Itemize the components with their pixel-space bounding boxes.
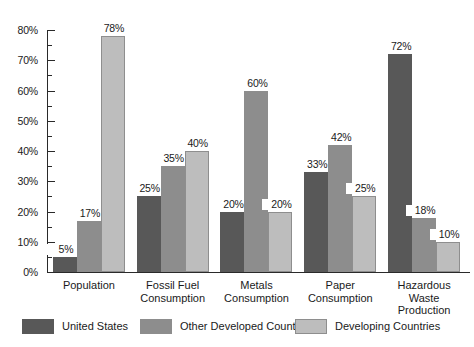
bar-group: 33%42%25% xyxy=(298,0,382,272)
y-tick-label: 20% xyxy=(2,207,38,217)
bar-2[interactable] xyxy=(352,196,376,272)
category-label: Fossil Fuel Consumption xyxy=(131,279,215,304)
x-axis-line xyxy=(47,272,470,273)
category-label: Population xyxy=(47,279,131,292)
bar-2[interactable] xyxy=(101,36,125,272)
category-label: Hazardous Waste Production xyxy=(382,279,466,317)
bar-value-label: 72% xyxy=(382,41,420,52)
bar-0[interactable] xyxy=(53,257,77,272)
bar-2[interactable] xyxy=(185,151,209,272)
bar-0[interactable] xyxy=(220,212,244,273)
y-tick-label: 80% xyxy=(2,25,38,35)
bar-group: 72%18%10% xyxy=(382,0,466,272)
bar-value-label: 25% xyxy=(346,183,384,194)
bar-value-label: 42% xyxy=(322,132,360,143)
chart-legend: United StatesOther Developed CountriesDe… xyxy=(0,318,474,340)
bar-1[interactable] xyxy=(77,221,101,272)
category-label: Paper Consumption xyxy=(298,279,382,304)
bar-2[interactable] xyxy=(436,242,460,272)
bar-1[interactable] xyxy=(328,145,352,272)
bar-group: 20%60%20% xyxy=(215,0,299,272)
legend-swatch-icon xyxy=(22,319,54,334)
y-tick-label: 10% xyxy=(2,237,38,247)
plot-area: 0%10%20%30%40%50%60%70%80% 5%17%78%25%35… xyxy=(0,0,474,300)
bar-1[interactable] xyxy=(161,166,185,272)
legend-label: Other Developed Countries xyxy=(180,320,313,333)
bar-1[interactable] xyxy=(244,91,268,273)
bar-value-label: 20% xyxy=(262,199,300,210)
bar-2[interactable] xyxy=(268,212,292,273)
y-axis-tick-labels: 0%10%20%30%40%50%60%70%80% xyxy=(0,0,38,300)
y-tick-label: 0% xyxy=(2,267,38,277)
category-label: Metals Consumption xyxy=(215,279,299,304)
bar-value-label: 60% xyxy=(238,78,276,89)
bar-group: 5%17%78% xyxy=(47,0,131,272)
bar-chart: 0%10%20%30%40%50%60%70%80% 5%17%78%25%35… xyxy=(0,0,474,347)
y-tick-label: 30% xyxy=(2,176,38,186)
bar-0[interactable] xyxy=(137,196,161,272)
bar-0[interactable] xyxy=(388,54,412,272)
y-tick-label: 50% xyxy=(2,116,38,126)
bar-0[interactable] xyxy=(304,172,328,272)
y-tick-label: 70% xyxy=(2,55,38,65)
legend-swatch-icon xyxy=(295,319,327,334)
legend-label: Developing Countries xyxy=(335,320,440,333)
y-tick-label: 40% xyxy=(2,146,38,156)
bars-container: 5%17%78%25%35%40%20%60%20%33%42%25%72%18… xyxy=(47,0,466,272)
bar-1[interactable] xyxy=(412,218,436,272)
legend-label: United States xyxy=(62,320,128,333)
bar-value-label: 40% xyxy=(179,138,217,149)
bar-group: 25%35%40% xyxy=(131,0,215,272)
y-tick-label: 60% xyxy=(2,86,38,96)
bar-value-label: 10% xyxy=(430,229,468,240)
bar-value-label: 18% xyxy=(406,205,444,216)
bar-value-label: 78% xyxy=(95,23,133,34)
legend-swatch-icon xyxy=(140,319,172,334)
